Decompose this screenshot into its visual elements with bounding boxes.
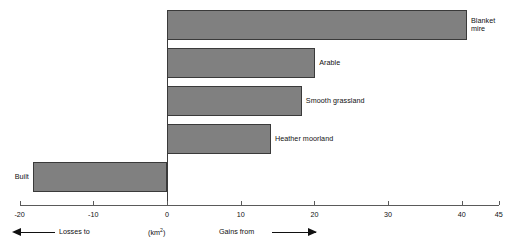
axis-tick-label: 0 [165, 210, 169, 219]
bar-label: Smooth grassland [306, 97, 365, 105]
bar-label: Arable [319, 59, 340, 67]
bar-label: Blanket mire [471, 17, 495, 34]
bar-label: Heather moorland [275, 135, 333, 143]
axis-tick [388, 201, 389, 205]
zero-axis-line [167, 10, 168, 205]
bar-label: Built [15, 173, 29, 181]
axis-tick [462, 201, 463, 205]
axis-tick [20, 201, 21, 205]
left-arrow-shaft-icon [21, 232, 55, 233]
right-arrow-head-icon [308, 228, 317, 236]
left-arrow-head-icon [12, 228, 21, 236]
axis-tick [499, 201, 500, 205]
axis-tick-label: 30 [384, 210, 392, 219]
bar-chart: Blanket mireArableSmooth grasslandHeathe… [0, 0, 512, 248]
axis-tick-label: -20 [14, 210, 24, 219]
axis-tick-label: -10 [88, 210, 98, 219]
gains-from-label: Gains from [219, 227, 254, 236]
bar [167, 48, 315, 78]
axis-annotations: Losses to (km2) Gains from [0, 222, 512, 248]
bar [167, 10, 467, 40]
axis-tick [314, 201, 315, 205]
axis-tick-label: 45 [495, 210, 503, 219]
bar [167, 124, 271, 154]
axis-tick [93, 201, 94, 205]
bar [33, 162, 167, 192]
axis-tick-label: 10 [237, 210, 245, 219]
axis-tick [167, 201, 168, 205]
losses-to-label: Losses to [59, 227, 90, 236]
bar [167, 86, 302, 116]
axis-tick-label: 20 [310, 210, 318, 219]
axis-tick [241, 201, 242, 205]
x-axis-line [20, 205, 499, 206]
unit-label: (km2) [148, 227, 165, 237]
axis-tick-label: 40 [458, 210, 466, 219]
plot-area: Blanket mireArableSmooth grasslandHeathe… [0, 0, 512, 205]
